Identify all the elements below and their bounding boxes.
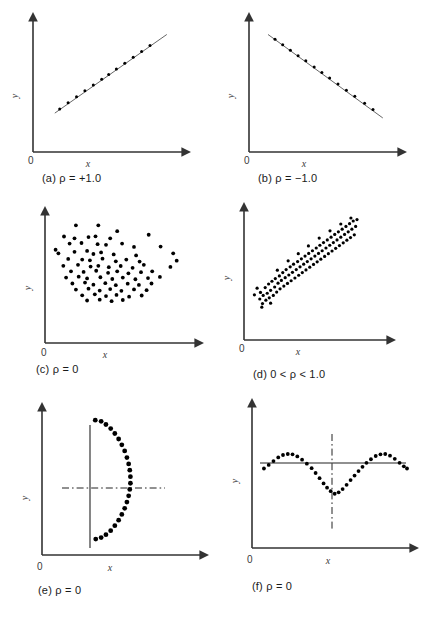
data-point [329,489,333,493]
data-point [260,306,263,309]
data-point [318,476,322,480]
panel-b: y x 0 (b) ρ = −1.0 [216,4,433,194]
panel-d-svg: y x 0 [216,200,433,368]
data-point [116,518,121,523]
figure-grid: y x 0 (a) ρ = +1.0 y x 0 [0,0,433,618]
data-point [169,265,173,269]
panel-c: y x 0 (c) ρ = 0 [0,200,216,390]
data-point [88,258,92,262]
data-point [345,239,348,242]
data-point [402,464,406,468]
data-point [110,299,114,303]
data-point [287,259,290,262]
data-point [349,478,353,482]
data-point [313,254,316,257]
data-point [74,288,78,292]
data-point [328,229,331,232]
data-point [132,56,135,59]
data-point [115,67,118,70]
panel-d-caption: (d) 0 < ρ < 1.0 [253,368,325,380]
data-point [262,467,266,471]
data-point [150,282,154,286]
data-point [312,263,315,266]
data-point [302,263,305,266]
data-point [273,285,276,288]
data-point [296,260,299,263]
data-point [274,277,277,280]
data-point [96,264,100,268]
y-axis-label: y [22,285,33,291]
trend-line [268,34,383,117]
data-point [146,276,150,280]
data-point [337,83,340,86]
data-point [62,235,66,239]
data-point [275,290,278,293]
data-point [341,228,344,231]
data-point [80,241,84,245]
data-point [353,474,357,478]
data-point [322,481,326,485]
data-point [335,238,338,241]
data-point [333,492,337,496]
data-point [108,287,112,291]
data-point [298,265,301,268]
data-point [398,461,402,465]
data-point [264,286,267,289]
data-point [310,257,313,260]
origin-label: 0 [41,347,47,358]
data-point [311,249,314,252]
data-point [339,236,342,239]
data-point [256,287,259,290]
data-point [289,49,292,52]
data-point [96,242,100,246]
x-axis-label: x [85,158,91,169]
data-point [286,452,290,456]
panel-c-series [54,223,179,303]
y-axis-label: y [225,93,236,99]
data-point [287,273,290,276]
panel-a: y x 0 (a) ρ = +1.0 [0,4,216,194]
data-point [149,44,152,47]
data-point [101,257,105,261]
data-point [134,254,138,258]
data-point [87,287,91,291]
data-point [112,253,116,257]
data-point [158,275,162,279]
data-point [93,292,97,296]
data-point [337,490,341,494]
data-point [266,292,269,295]
data-point [126,462,131,467]
data-point [150,269,154,273]
data-point [353,233,356,236]
data-point [258,297,261,300]
data-point [121,276,125,280]
data-point [341,487,345,491]
panel-b-series [268,34,383,117]
data-point [139,270,143,274]
data-point [73,236,77,240]
data-point [127,468,132,473]
data-point [89,265,93,269]
data-point [318,236,321,239]
data-point [108,426,113,431]
panel-b-axes [249,20,399,152]
panel-a-svg: y x 0 [0,4,216,172]
data-point [110,277,114,281]
data-point [100,78,103,81]
data-point [267,463,271,467]
data-point [137,283,141,287]
data-point [308,266,311,269]
data-point [293,276,296,279]
data-point [365,461,369,465]
data-point [104,294,108,298]
data-point [145,288,149,292]
data-point [280,279,283,282]
data-point [112,523,117,528]
y-axis-label: y [19,495,30,501]
data-point [123,62,126,65]
data-point [281,43,284,46]
data-point [124,258,128,262]
data-point [76,263,80,267]
data-point [267,282,270,285]
panel-e-caption: (e) ρ = 0 [38,584,81,596]
